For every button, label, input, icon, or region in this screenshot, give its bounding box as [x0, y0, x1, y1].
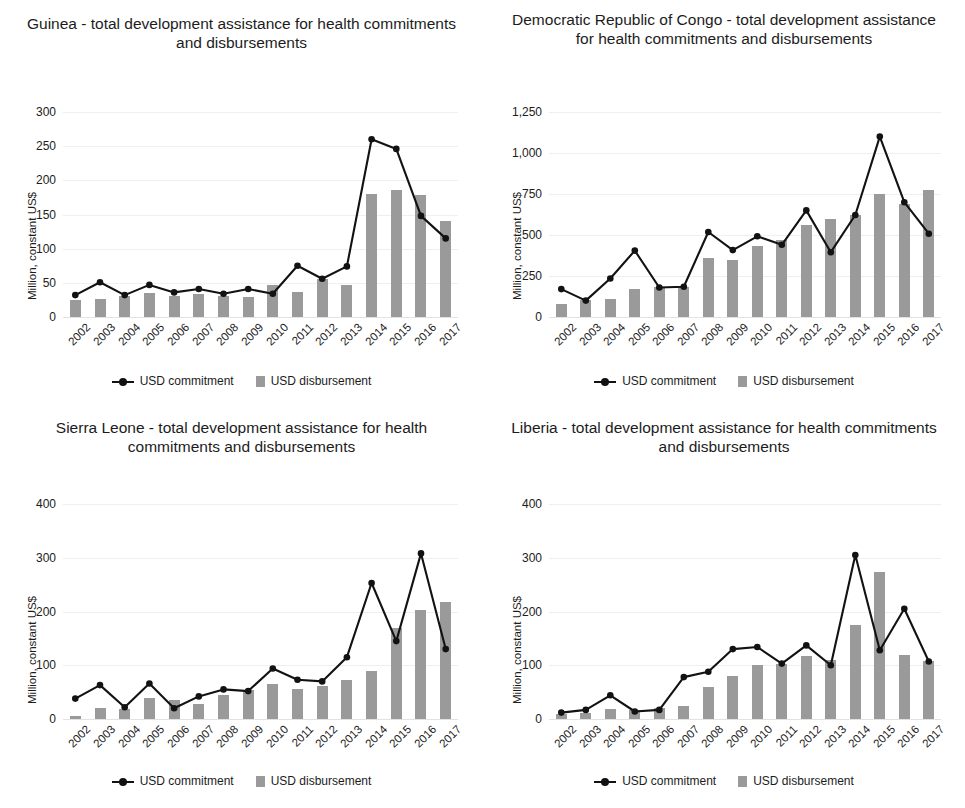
x-axis-tick-label: 2016 — [895, 321, 922, 348]
charts-grid: Guinea - total development assistance fo… — [0, 0, 965, 808]
x-axis-tick-label: 2003 — [91, 723, 118, 750]
legend-label-disbursement: USD disbursement — [271, 774, 372, 788]
x-axis-tick-label: 2002 — [66, 723, 93, 750]
chart-title: Guinea - total development assistance fo… — [0, 14, 483, 52]
x-axis-tick-label: 2017 — [920, 723, 947, 750]
x-axis-tick-label: 2009 — [239, 321, 266, 348]
y-axis-tick-label: 50 — [43, 276, 63, 290]
legend-label-disbursement: USD disbursement — [753, 374, 854, 388]
x-axis-tick-label: 2010 — [748, 723, 775, 750]
plot-area: 0100200300400200220032004200520062007200… — [63, 504, 458, 719]
x-axis-tick-label: 2008 — [214, 321, 241, 348]
x-axis-tick-label: 2013 — [822, 321, 849, 348]
line-series — [549, 112, 941, 317]
x-axis-tick-label: 2004 — [116, 321, 143, 348]
x-axis-tick-label: 2016 — [412, 723, 439, 750]
legend-label-commitment: USD commitment — [622, 774, 716, 788]
y-axis-tick-label: 250 — [36, 139, 63, 153]
x-axis-tick-label: 2008 — [699, 723, 726, 750]
x-axis-tick-label: 2015 — [871, 723, 898, 750]
x-axis-tick-label: 2004 — [116, 723, 143, 750]
x-axis-tick-label: 2006 — [650, 321, 677, 348]
x-axis-tick-label: 2016 — [895, 723, 922, 750]
x-axis-tick-label: 2007 — [190, 723, 217, 750]
y-axis-tick-label: 300 — [36, 105, 63, 119]
x-axis-tick-label: 2017 — [437, 723, 464, 750]
legend-item-commitment: USD commitment — [112, 774, 234, 788]
x-axis-tick-label: 2011 — [773, 321, 799, 347]
x-axis-tick-label: 2004 — [601, 321, 628, 348]
y-axis-tick-label: 100 — [522, 658, 549, 672]
x-axis-tick-label: 2012 — [797, 321, 824, 348]
x-axis-tick-label: 2006 — [650, 723, 677, 750]
y-axis-tick-label: 300 — [522, 551, 549, 565]
legend-item-disbursement: USD disbursement — [738, 374, 854, 388]
x-axis-tick-label: 2010 — [264, 723, 291, 750]
x-axis-tick-label: 2016 — [412, 321, 439, 348]
y-axis-tick-label: 1,250 — [512, 105, 549, 119]
legend-label-commitment: USD commitment — [622, 374, 716, 388]
x-axis-tick-label: 2002 — [66, 321, 93, 348]
y-axis-tick-label: 200 — [36, 605, 63, 619]
x-axis-tick-label: 2008 — [214, 723, 241, 750]
x-axis-tick-label: 2013 — [822, 723, 849, 750]
x-axis-tick-label: 2002 — [552, 321, 579, 348]
chart-panel-sierra-leone: Sierra Leone - total development assista… — [0, 404, 483, 808]
chart-legend: USD commitment USD disbursement — [483, 774, 965, 788]
legend-label-disbursement: USD disbursement — [753, 774, 854, 788]
chart-legend: USD commitment USD disbursement — [0, 374, 483, 388]
x-axis-tick-label: 2008 — [699, 321, 726, 348]
line-marker-icon — [112, 376, 134, 386]
x-axis: 2002200320042005200620072008200920102011… — [549, 317, 941, 377]
chart-legend: USD commitment USD disbursement — [0, 774, 483, 788]
x-axis-tick-label: 2012 — [797, 723, 824, 750]
y-axis-tick-label: 200 — [522, 605, 549, 619]
y-axis-tick-label: 0 — [535, 310, 549, 324]
chart-title: Liberia - total development assistance f… — [483, 418, 965, 456]
bar-swatch-icon — [256, 376, 265, 387]
x-axis-tick-label: 2009 — [239, 723, 266, 750]
y-axis-tick-label: 100 — [36, 658, 63, 672]
line-marker-icon — [594, 776, 616, 786]
bar-swatch-icon — [738, 376, 747, 387]
x-axis-tick-label: 2004 — [601, 723, 628, 750]
plot-area: 0100200300400200220032004200520062007200… — [549, 504, 941, 719]
legend-item-commitment: USD commitment — [112, 374, 234, 388]
y-axis-tick-label: 300 — [36, 551, 63, 565]
x-axis-tick-label: 2010 — [264, 321, 291, 348]
x-axis-tick-label: 2012 — [313, 723, 340, 750]
x-axis-tick-label: 2009 — [724, 723, 751, 750]
x-axis-tick-label: 2013 — [338, 321, 365, 348]
line-marker-icon — [594, 376, 616, 386]
legend-item-commitment: USD commitment — [594, 374, 716, 388]
x-axis-tick-label: 2014 — [362, 723, 389, 750]
x-axis-tick-label: 2011 — [289, 723, 315, 749]
x-axis-tick-label: 2015 — [387, 321, 414, 348]
y-axis-label: Million, constant US$ — [511, 192, 523, 300]
x-axis-tick-label: 2011 — [773, 723, 799, 749]
y-axis-tick-label: 0 — [49, 712, 63, 726]
plot-area: 02505007501,0001,25020022003200420052006… — [549, 112, 941, 317]
x-axis-tick-label: 2011 — [289, 321, 315, 347]
y-axis-tick-label: 750 — [522, 187, 549, 201]
x-axis-tick-label: 2003 — [91, 321, 118, 348]
chart-panel-liberia: Liberia - total development assistance f… — [483, 404, 965, 808]
legend-label-disbursement: USD disbursement — [271, 374, 372, 388]
line-series — [63, 112, 458, 317]
legend-label-commitment: USD commitment — [140, 774, 234, 788]
x-axis-tick-label: 2007 — [190, 321, 217, 348]
chart-title: Sierra Leone - total development assista… — [0, 418, 483, 456]
y-axis-tick-label: 500 — [522, 228, 549, 242]
x-axis-tick-label: 2010 — [748, 321, 775, 348]
x-axis-tick-label: 2015 — [387, 723, 414, 750]
line-series — [549, 504, 941, 719]
x-axis: 2002200320042005200620072008200920102011… — [63, 719, 458, 779]
x-axis-tick-label: 2003 — [577, 723, 604, 750]
chart-panel-drc: Democratic Republic of Congo - total dev… — [483, 0, 965, 404]
x-axis-tick-label: 2005 — [626, 321, 653, 348]
bar-swatch-icon — [738, 776, 747, 787]
x-axis-tick-label: 2005 — [140, 321, 167, 348]
x-axis-tick-label: 2017 — [437, 321, 464, 348]
legend-item-disbursement: USD disbursement — [256, 374, 372, 388]
y-axis-tick-label: 0 — [49, 310, 63, 324]
